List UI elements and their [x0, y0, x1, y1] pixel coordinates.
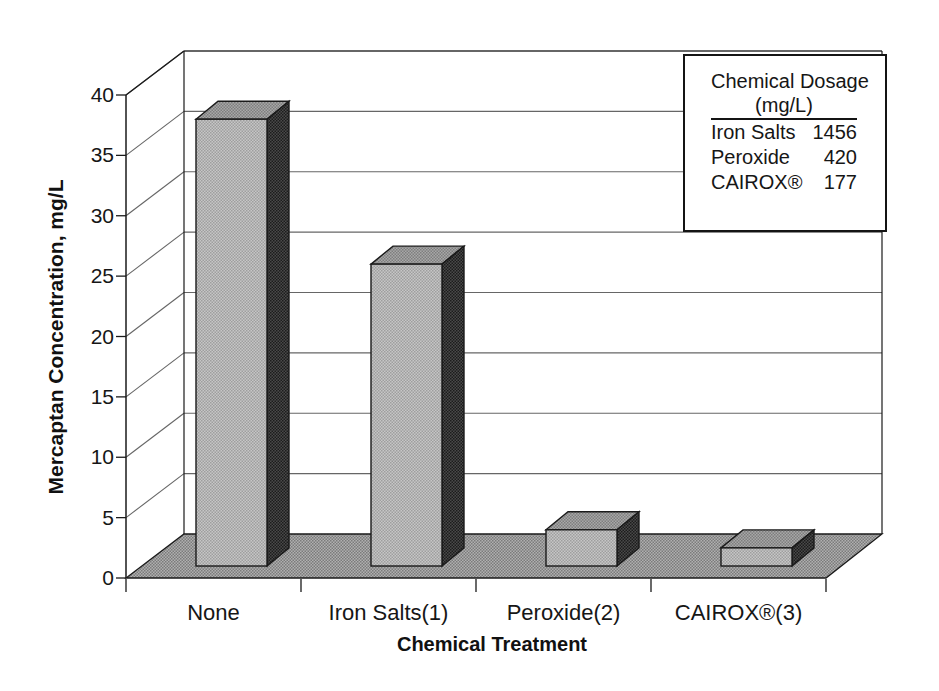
legend-subtitle: (mg/L)	[711, 93, 857, 120]
legend-row-peroxide: Peroxide 420	[711, 145, 857, 170]
y-tick-label: 30	[52, 203, 114, 229]
dosage-legend-box: Chemical Dosage (mg/L) Iron Salts 1456 P…	[683, 54, 887, 232]
y-tick-label: 5	[52, 505, 114, 531]
legend-label: Iron Salts	[711, 120, 795, 145]
x-tick-label: Peroxide(2)	[469, 600, 659, 626]
legend-label: CAIROX®	[711, 170, 802, 195]
y-tick-label: 40	[52, 82, 114, 108]
y-tick-label: 0	[52, 565, 114, 591]
legend-value: 177	[824, 170, 857, 195]
legend-row-iron-salts: Iron Salts 1456	[711, 120, 857, 145]
x-tick-label: CAIROX®(3)	[644, 600, 834, 626]
y-tick-label: 15	[52, 384, 114, 410]
legend-value: 1456	[813, 120, 858, 145]
x-tick-label: None	[119, 600, 309, 626]
y-tick-label: 20	[52, 324, 114, 350]
x-tick-label: Iron Salts(1)	[294, 600, 484, 626]
y-tick-label: 25	[52, 263, 114, 289]
legend-value: 420	[824, 145, 857, 170]
legend-row-cairox: CAIROX® 177	[711, 170, 857, 195]
x-axis-title: Chemical Treatment	[397, 633, 587, 656]
legend-label: Peroxide	[711, 145, 790, 170]
y-tick-label: 10	[52, 444, 114, 470]
legend-title: Chemical Dosage	[711, 69, 857, 93]
chart-figure: Mercaptan Concentration, mg/L Chemical T…	[0, 0, 939, 691]
y-tick-label: 35	[52, 142, 114, 168]
